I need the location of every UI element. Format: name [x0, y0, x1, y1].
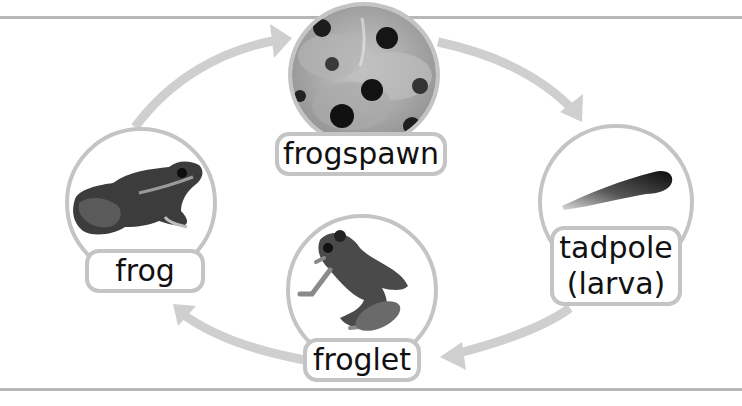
tadpole-label-line1: tadpole: [559, 230, 672, 266]
tadpole-label-line2: (larva): [567, 266, 666, 302]
arrow-frog-to-frogspawn: [135, 40, 278, 127]
frogspawn-image: [292, 6, 436, 144]
frog-label-text: frog: [115, 253, 175, 289]
frog-label: frog: [85, 249, 205, 293]
arrow-froglet-to-frog: [180, 312, 305, 360]
froglet-label: froglet: [303, 338, 421, 382]
froglet-label-text: froglet: [313, 342, 411, 378]
arrow-frogspawn-to-tadpole: [438, 42, 575, 112]
arrowhead-froglet: [440, 342, 466, 370]
frogspawn-circle: [288, 2, 440, 148]
arrow-tadpole-to-froglet: [455, 308, 570, 354]
frogspawn-label: frogspawn: [275, 132, 447, 176]
tadpole-label: tadpole (larva): [550, 226, 682, 306]
arrowhead-frogspawn: [270, 24, 292, 58]
frogspawn-label-text: frogspawn: [283, 136, 439, 172]
